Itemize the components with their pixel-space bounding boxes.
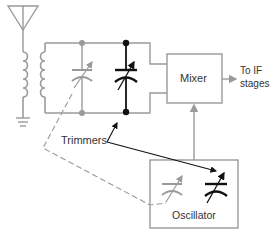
antenna-icon [8,6,38,52]
output-label-line2: stages [240,77,269,90]
primary-coil-icon [23,52,28,118]
mixer-label: Mixer [180,73,207,84]
trimmers-label: Trimmers [61,135,107,146]
ground-icon [16,118,30,126]
oscillator-label: Oscillator [172,210,216,221]
tuned-circuit-rails [45,43,167,113]
ganged-tuning-link [43,94,166,205]
output-label: To IF stages [240,64,269,90]
rf-tuning-capacitor-icon [72,40,92,116]
secondary-coil-icon [41,43,46,113]
schematic-canvas: Mixer To IF stages Trimmers Oscillator [0,0,271,231]
output-label-line1: To IF [240,64,269,77]
schematic-drawing [0,0,271,231]
rf-trimmer-capacitor-icon [115,40,137,115]
